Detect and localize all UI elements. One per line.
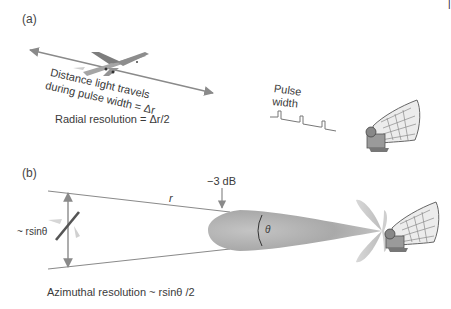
pulse-label-line2: width xyxy=(272,95,299,110)
range-label: r xyxy=(169,192,173,204)
diagram-canvas xyxy=(0,0,451,309)
panel-b-label: (b) xyxy=(22,166,37,180)
cross-range-label: ~ rsinθ xyxy=(17,226,47,237)
azimuthal-resolution-text: Azimuthal resolution ~ rsinθ /2 xyxy=(47,286,195,298)
minus-3db-label: −3 dB xyxy=(207,175,236,187)
main-lobe-icon xyxy=(208,210,382,251)
airplane-icon xyxy=(73,52,149,76)
radial-resolution-text: Radial resolution = Δr/2 xyxy=(55,113,170,125)
beam-angle-label: θ xyxy=(265,224,270,235)
radar-dish-icon xyxy=(385,202,439,252)
aircraft-silhouette-icon xyxy=(48,212,80,240)
corner-mark: | xyxy=(448,0,451,9)
radar-dish-icon xyxy=(366,100,420,152)
pulse-train-icon xyxy=(270,111,336,131)
panel-a-label: (a) xyxy=(22,12,37,26)
